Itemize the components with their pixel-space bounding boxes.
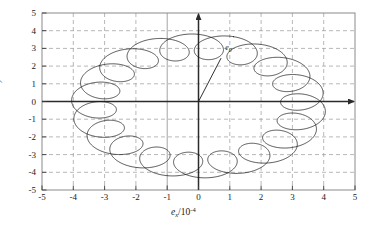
- x-tick-label-minus-3: -3: [97, 193, 113, 202]
- y-tick-label-minus-2: -2: [20, 133, 36, 142]
- y-tick-label-minus-1: -1: [20, 115, 36, 124]
- y-axis-title-sub: y: [0, 79, 2, 82]
- y-tick-label-3: 3: [22, 44, 36, 53]
- y-tick-label-minus-3: -3: [20, 151, 36, 160]
- y-tick-label-0: 0: [22, 98, 36, 107]
- e0-vector-label: e0: [225, 44, 232, 53]
- x-axis-title-unit: /10: [178, 207, 190, 217]
- x-tick-label-minus-4: -4: [65, 193, 81, 202]
- x-tick-label-5: 5: [347, 193, 363, 202]
- e0-label-sub: 0: [229, 47, 232, 53]
- y-tick-label-4: 4: [22, 27, 36, 36]
- y-tick-label-2: 2: [22, 62, 36, 71]
- x-tick-label-1: 1: [222, 193, 238, 202]
- y-tick-label-5: 5: [22, 9, 36, 18]
- y-axis-title-var: e: [0, 82, 1, 86]
- y-tick-label-minus-4: -4: [20, 168, 36, 177]
- y-axis-title-unit: /10: [0, 67, 1, 79]
- x-tick-label-4: 4: [316, 193, 332, 202]
- x-tick-label-minus-2: -2: [128, 193, 144, 202]
- x-tick-label-minus-5: -5: [34, 193, 50, 202]
- x-axis-title-exp: -4: [190, 206, 195, 213]
- x-tick-label-2: 2: [253, 193, 269, 202]
- x-tick-label-3: 3: [284, 193, 300, 202]
- y-tick-label-1: 1: [22, 80, 36, 89]
- x-axis-title: ex/10-4: [171, 207, 196, 218]
- x-tick-label-minus-1: -1: [159, 193, 175, 202]
- x-tick-label-0: 0: [191, 193, 207, 202]
